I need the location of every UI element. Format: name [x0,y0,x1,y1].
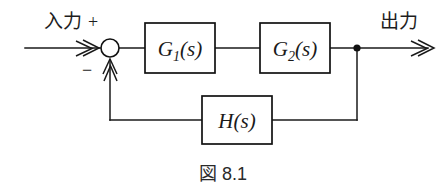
block-g2: G2(s) [260,23,330,73]
output-label: 出力 [380,10,418,32]
block-h-arg: (s) [234,109,256,133]
block-g2-main: G [273,37,288,61]
block-g2-sub: 2 [288,49,295,64]
block-g1-sub: 1 [173,49,180,64]
block-g1-main: G [158,37,173,61]
block-g1-arg: (s) [180,37,202,61]
minus-sign-label: − [82,60,92,80]
block-diagram-canvas: G1(s) G2(s) H(s) 入力 + − 出力 図 8.1 [0,0,446,196]
block-diagram-figure: G1(s) G2(s) H(s) 入力 + − 出力 図 8.1 [0,0,446,196]
block-h-label: H(s) [217,109,255,133]
plus-sign-label: + [88,12,98,32]
takeoff-node-icon [353,44,360,51]
block-g1: G1(s) [145,23,215,73]
block-g2-arg: (s) [295,37,317,61]
block-g2-label: G2(s) [273,37,317,64]
summing-junction-icon [101,39,119,57]
figure-caption: 図 8.1 [199,164,247,184]
block-g1-label: G1(s) [158,37,202,64]
input-label: 入力 [44,10,82,32]
block-h: H(s) [202,96,272,144]
